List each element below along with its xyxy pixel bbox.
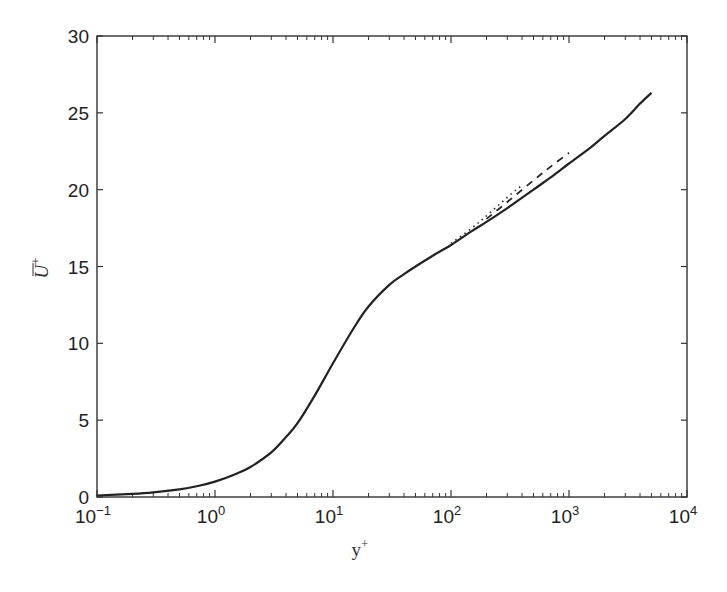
y-tick-label: 15 <box>68 257 89 278</box>
x-axis-label-sup: + <box>361 536 368 551</box>
x-tick-label: 100 <box>197 503 225 527</box>
series-dotted <box>451 185 522 243</box>
x-axis-ticks: 10−1100101102103104 <box>75 36 697 527</box>
y-tick-label: 0 <box>78 487 89 508</box>
x-tick-label: 101 <box>315 503 343 527</box>
svg-text:y+: y+ <box>352 536 369 560</box>
y-tick-label: 25 <box>68 103 89 124</box>
y-axis-label: U+ <box>28 257 52 278</box>
svg-text:U+: U+ <box>28 257 52 278</box>
chart: 10−1100101102103104 051015202530 y+ U+ <box>0 0 727 592</box>
y-tick-label: 20 <box>68 180 89 201</box>
x-axis-label: y+ <box>352 536 369 560</box>
y-axis-ticks: 051015202530 <box>68 26 687 508</box>
x-axis-label-main: y <box>352 539 362 560</box>
series-dashed <box>487 153 570 219</box>
minor-ticks <box>133 36 682 497</box>
plot-frame <box>97 36 687 497</box>
x-tick-label: 103 <box>551 503 579 527</box>
x-tick-label: 102 <box>433 503 461 527</box>
y-tick-label: 5 <box>78 410 89 431</box>
y-axis-label-sup: + <box>28 257 43 264</box>
data-series <box>97 93 652 496</box>
x-tick-label: 104 <box>669 503 697 527</box>
y-tick-label: 10 <box>68 333 89 354</box>
y-tick-label: 30 <box>68 26 89 47</box>
